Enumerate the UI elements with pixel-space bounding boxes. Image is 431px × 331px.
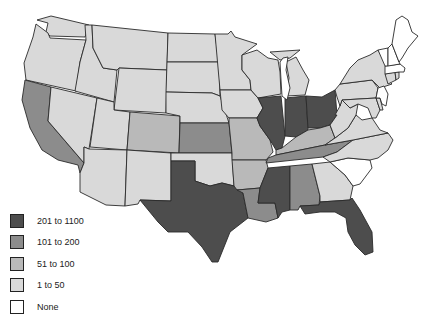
- legend-item-101-200: 101 to 200: [10, 232, 84, 254]
- state-KS: [179, 123, 232, 153]
- state-ME: [392, 16, 418, 62]
- legend-swatch: [10, 214, 24, 228]
- state-NM: [125, 150, 171, 206]
- legend-item-none: None: [10, 296, 84, 318]
- legend-swatch: [10, 300, 24, 314]
- state-ND: [167, 33, 219, 62]
- legend-label: None: [37, 302, 59, 312]
- legend-swatch: [10, 257, 24, 271]
- state-WY: [114, 68, 167, 113]
- legend-label: 101 to 200: [37, 237, 80, 247]
- legend-swatch: [10, 235, 24, 249]
- state-CO: [127, 112, 180, 153]
- state-AZ: [80, 147, 127, 206]
- legend-label: 51 to 100: [37, 259, 75, 269]
- legend-item-201-1100: 201 to 1100: [10, 210, 84, 232]
- state-IN: [285, 96, 308, 137]
- legend-item-1-50: 1 to 50: [10, 275, 84, 297]
- legend-label: 1 to 50: [37, 280, 65, 290]
- legend-swatch: [10, 278, 24, 292]
- state-RI: [395, 72, 399, 80]
- legend: 201 to 1100 101 to 200 51 to 100 1 to 50…: [10, 210, 84, 318]
- legend-item-51-100: 51 to 100: [10, 253, 84, 275]
- state-SD: [166, 62, 220, 96]
- state-FL: [300, 198, 373, 255]
- legend-label: 201 to 1100: [37, 216, 84, 226]
- state-MT: [92, 25, 168, 70]
